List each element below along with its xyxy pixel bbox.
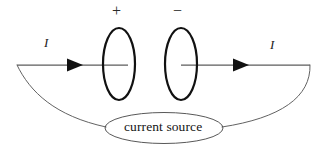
current-arrow-left-icon: [67, 59, 83, 72]
capacitor-plate-negative: [165, 28, 197, 100]
current-source-label: current source: [124, 120, 202, 134]
figure-canvas: + − I I current source: [0, 0, 327, 150]
plate-positive-sign: +: [112, 3, 121, 19]
current-label-right: I: [270, 38, 274, 51]
capacitor-plate-positive: [103, 28, 135, 100]
right-return-wire: [222, 65, 310, 127]
current-label-left: I: [44, 36, 48, 49]
plate-negative-sign: −: [173, 3, 182, 19]
current-arrow-right-icon: [233, 59, 249, 72]
left-return-wire: [17, 65, 106, 127]
